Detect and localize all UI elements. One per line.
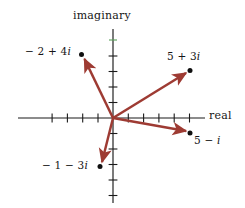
real-axis-label: real — [209, 110, 232, 121]
point-minus1-minus3i — [98, 164, 103, 169]
point-label-minus2-plus4i: − 2 + 4i — [25, 46, 71, 57]
point-label-minus1-minus3i: − 1 − 3i — [42, 160, 88, 171]
vector-5-plus-3i — [113, 73, 186, 118]
point-minus2-plus4i — [79, 52, 84, 57]
vector-minus1-minus3i — [102, 118, 113, 162]
complex-vectors — [85, 59, 187, 162]
plotted-points — [79, 52, 193, 169]
point-label-5-minus-i: 5 − i — [194, 135, 221, 146]
vector-5-minus-i — [113, 118, 186, 131]
point-5-plus-3i — [188, 68, 193, 73]
imaginary-axis-label: imaginary — [73, 10, 131, 21]
argand-diagram-canvas — [0, 0, 245, 208]
point-label-5-plus-3i: 5 + 3i — [167, 51, 200, 62]
complex-plane-figure: imaginary real − 2 + 4i 5 + 3i 5 − i − 1… — [0, 0, 245, 208]
vector-minus2-plus4i — [85, 59, 114, 118]
point-5-minus-i — [188, 131, 193, 136]
